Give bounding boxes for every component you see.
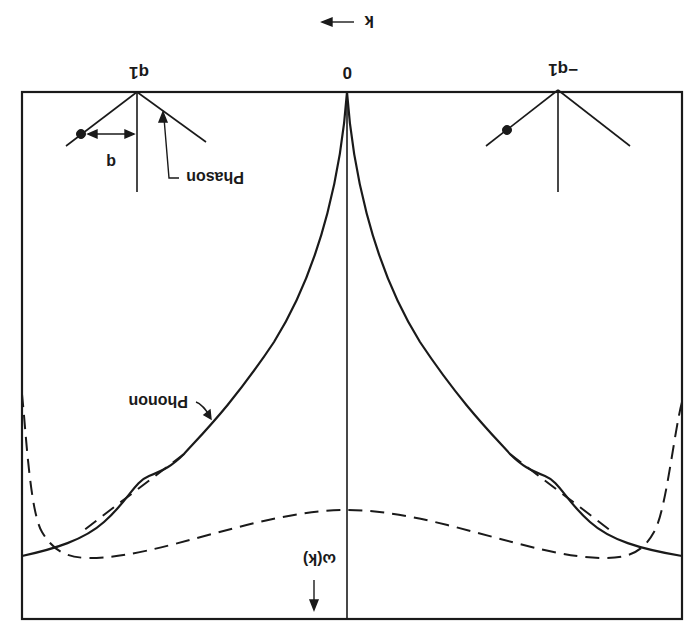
label-q: q xyxy=(106,154,116,171)
marked-point-q1 xyxy=(77,130,86,139)
folded-dashed-curve xyxy=(22,394,682,558)
label-phonon: Phonon xyxy=(128,393,188,410)
cone-minus-q1 xyxy=(486,90,630,192)
phonon-curve xyxy=(22,92,347,556)
dispersion-diagram: k 0 q1 −q1 q Phason Phonon ω(k) xyxy=(0,0,694,642)
q-double-arrow xyxy=(88,130,134,138)
phason-cone-q1 xyxy=(66,92,206,192)
label-k: k xyxy=(364,12,374,31)
omega-axis-arrow xyxy=(310,580,318,610)
plot-frame xyxy=(22,92,682,619)
label-q1: q1 xyxy=(129,63,149,82)
phason-leader xyxy=(159,112,179,178)
k-axis-arrow xyxy=(322,18,354,26)
marked-point-minus-q1 xyxy=(503,126,512,135)
label-omega: ω(k) xyxy=(303,551,336,568)
label-origin: 0 xyxy=(343,63,352,82)
label-minus-q1: −q1 xyxy=(548,60,578,79)
label-phason: Phason xyxy=(186,169,244,186)
phonon-leader xyxy=(196,402,211,419)
phonon-curve-mirror xyxy=(347,92,682,556)
